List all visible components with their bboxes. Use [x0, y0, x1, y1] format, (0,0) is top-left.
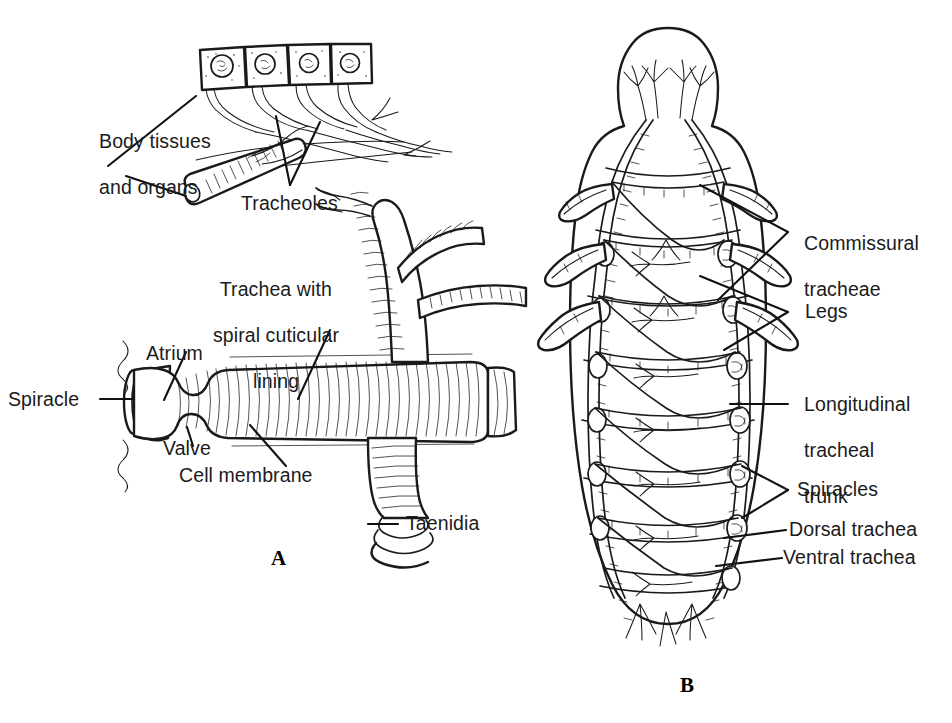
body-tissue-cells: [200, 44, 372, 90]
label-body-tissues-line1: Body tissues: [99, 130, 211, 152]
label-atrium: Atrium: [146, 342, 203, 365]
label-trachea-with-spiral-cuticular-lining: Trachea with spiral cuticular lining: [183, 255, 358, 393]
label-tracheoles: Tracheoles: [241, 192, 338, 215]
label-commissural-line2: tracheae: [804, 278, 881, 300]
figure-insect-tracheal-system: .s{fill:none;stroke:#1a1a1a;stroke-linec…: [0, 0, 952, 723]
panel-letter-b: B: [680, 673, 694, 698]
label-taenidia: Taenidia: [406, 512, 479, 535]
label-spiracle: Spiracle: [8, 388, 79, 411]
descending-branch-taenidia: [368, 438, 433, 568]
label-spiracles: Spiracles: [797, 478, 878, 501]
label-body-tissues-line2: and organs: [99, 176, 198, 198]
label-trachea-line1: Trachea with: [220, 278, 332, 300]
label-longitudinal-line2: tracheal: [804, 439, 874, 461]
panel-b-artwork: [538, 28, 798, 646]
label-trachea-line2: spiral cuticular: [213, 324, 339, 346]
label-legs: Legs: [805, 300, 848, 323]
label-body-tissues-and-organs: Body tissues and organs: [88, 107, 211, 199]
label-trachea-line3: lining: [253, 370, 299, 392]
label-ventral-trachea: Ventral trachea: [783, 546, 916, 569]
panel-letter-a: A: [271, 546, 286, 571]
label-longitudinal-line1: Longitudinal: [804, 393, 910, 415]
label-dorsal-trachea: Dorsal trachea: [789, 518, 917, 541]
label-commissural-line1: Commissural: [804, 232, 919, 254]
label-commissural-tracheae: Commissural tracheae: [793, 209, 919, 301]
label-valve: Valve: [163, 437, 211, 460]
label-cell-membrane: Cell membrane: [179, 464, 313, 487]
